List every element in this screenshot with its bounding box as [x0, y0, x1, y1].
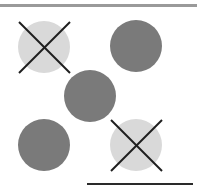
dark-circle	[110, 20, 162, 72]
circle-4	[18, 119, 70, 171]
circle-5-crossed	[110, 119, 162, 171]
circle-1-crossed	[18, 21, 70, 73]
answer-underline	[87, 183, 193, 185]
shape-canvas	[0, 0, 197, 187]
dark-circle	[18, 119, 70, 171]
circle-2	[110, 20, 162, 72]
dark-circle	[64, 70, 116, 122]
circle-3	[64, 70, 116, 122]
